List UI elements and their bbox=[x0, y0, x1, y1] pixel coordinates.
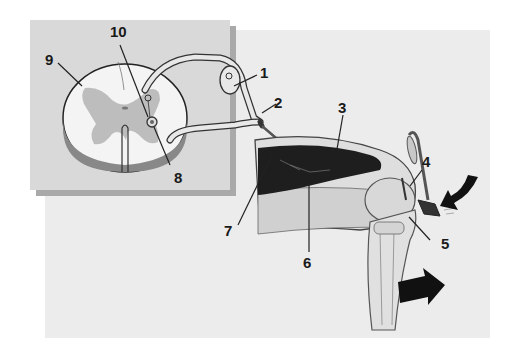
label-5: 5 bbox=[441, 236, 449, 251]
label-1: 1 bbox=[260, 65, 268, 80]
label-7: 7 bbox=[224, 223, 232, 238]
spinal-cord-cross-section bbox=[63, 62, 187, 172]
label-9: 9 bbox=[45, 52, 53, 67]
label-2: 2 bbox=[274, 95, 282, 110]
label-4: 4 bbox=[422, 154, 430, 169]
label-10: 10 bbox=[110, 24, 127, 39]
label-3: 3 bbox=[338, 100, 346, 115]
label-6: 6 bbox=[303, 255, 311, 270]
dorsal-root-ganglion bbox=[220, 66, 240, 94]
reflex-arc-diagram: 1 2 3 4 5 6 7 8 9 10 bbox=[0, 0, 520, 354]
label-8: 8 bbox=[174, 170, 182, 185]
